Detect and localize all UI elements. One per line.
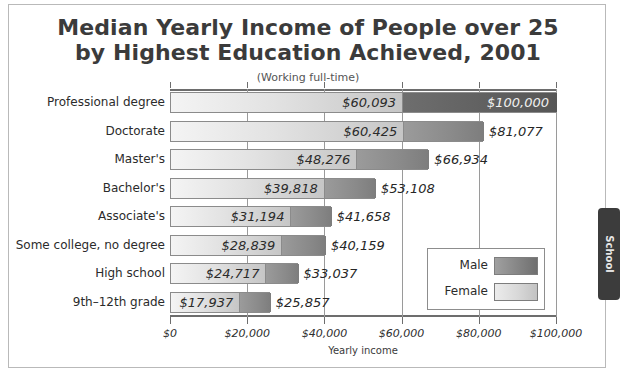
x-tick-top <box>556 82 557 88</box>
x-tick-top <box>170 82 171 88</box>
category-label: Professional degree <box>47 92 165 113</box>
x-tick-label: $20,000 <box>224 327 270 340</box>
bar-male-segment <box>404 122 484 141</box>
x-tick-bottom <box>247 317 248 324</box>
category-label: Some college, no degree <box>16 235 165 256</box>
bar-value-male: $33,037 <box>304 263 358 284</box>
chart-title-line-1: Median Yearly Income of People over 25 <box>9 15 607 40</box>
legend-label-male: Male <box>436 254 488 277</box>
bar-value-female: $39,818 <box>170 178 318 199</box>
axis-bottom-line <box>170 315 556 317</box>
bar-male-segment <box>240 293 271 312</box>
side-tab-school[interactable]: School <box>598 208 620 300</box>
chart-subtitle: (Working full-time) <box>9 71 607 84</box>
bar-male-segment <box>325 179 376 198</box>
x-tick-top <box>402 82 403 88</box>
bar-value-male: $66,934 <box>434 149 488 170</box>
category-label: High school <box>95 263 165 284</box>
bar-male-segment <box>357 150 429 169</box>
x-tick-label: $100,000 <box>530 327 583 340</box>
bar-value-female: $17,937 <box>170 292 233 313</box>
bar-value-male: $40,159 <box>331 235 385 256</box>
bar-value-male: $100,000 <box>170 92 549 113</box>
category-label: Master's <box>114 149 165 170</box>
chart-title-block: Median Yearly Income of People over 25 b… <box>9 15 607 84</box>
x-tick-top <box>247 82 248 88</box>
legend-swatch-female <box>494 283 538 301</box>
bar-row: $48,276$66,934 <box>170 149 556 170</box>
bar-value-female: $28,839 <box>170 235 275 256</box>
bar-value-male: $41,658 <box>337 206 391 227</box>
x-tick-label: $80,000 <box>456 327 502 340</box>
bar-value-female: $31,194 <box>170 206 284 227</box>
legend-item-female: Female <box>436 280 538 303</box>
chart-title-line-2: by Highest Education Achieved, 2001 <box>9 40 607 65</box>
x-tick-bottom <box>324 317 325 324</box>
bar-value-female: $24,717 <box>170 263 259 284</box>
x-tick-top <box>479 82 480 88</box>
bar-value-female: $48,276 <box>170 149 350 170</box>
x-tick-top <box>324 82 325 88</box>
chart-frame: Median Yearly Income of People over 25 b… <box>8 4 606 368</box>
bar-value-male: $81,077 <box>489 121 543 142</box>
category-axis: Professional degreeDoctorateMaster'sBach… <box>17 89 165 317</box>
bar-value-male: $25,857 <box>276 292 330 313</box>
category-label: 9th–12th grade <box>73 292 165 313</box>
bar-row: $60,425$81,077 <box>170 121 556 142</box>
category-label: Bachelor's <box>103 178 165 199</box>
x-tick-label: $60,000 <box>379 327 425 340</box>
gridline <box>556 89 557 317</box>
x-tick-bottom <box>402 317 403 324</box>
x-tick-label: $40,000 <box>302 327 348 340</box>
x-tick-bottom <box>479 317 480 324</box>
bar-row: $39,818$53,108 <box>170 178 556 199</box>
x-tick-bottom <box>556 317 557 324</box>
bar-row: $60,093$100,000 <box>170 92 556 113</box>
x-axis-title: Yearly income <box>170 345 556 356</box>
axis-top-line <box>170 89 556 91</box>
bar-value-male: $53,108 <box>381 178 435 199</box>
chart-legend: Male Female <box>427 248 545 310</box>
side-tab-label: School <box>604 235 615 272</box>
x-tick-bottom <box>170 317 171 324</box>
legend-label-female: Female <box>436 280 488 303</box>
legend-item-male: Male <box>436 254 538 277</box>
bar-male-segment <box>291 207 331 226</box>
legend-swatch-male <box>494 257 538 275</box>
bar-row: $31,194$41,658 <box>170 206 556 227</box>
bar-value-female: $60,425 <box>170 121 397 142</box>
bar-male-segment <box>266 264 298 283</box>
category-label: Associate's <box>98 206 165 227</box>
bar-male-segment <box>282 236 326 255</box>
x-tick-label: $0 <box>163 327 177 340</box>
category-label: Doctorate <box>105 121 165 142</box>
